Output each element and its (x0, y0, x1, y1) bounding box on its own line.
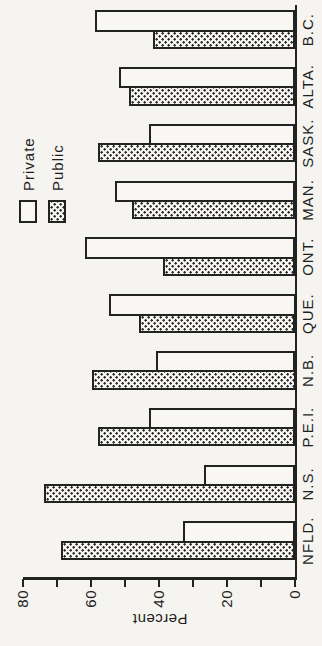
bar-private-bc (95, 10, 296, 31)
figure-scan: Percent Private Public 020406080NFLD.N.S… (0, 0, 322, 646)
legend-label-public: Public (50, 144, 66, 191)
tick-0 (294, 580, 296, 588)
tick-label-60: 60 (82, 590, 100, 626)
bar-public-man (132, 200, 295, 219)
category-label-ns: N.S. (300, 452, 316, 516)
tick-label-0: 0 (286, 590, 304, 626)
category-label-ont: ONT. (300, 225, 316, 289)
legend-label-private: Private (21, 137, 37, 191)
category-label-bc: B.C. (300, 0, 316, 62)
legend-private-swatch-icon (19, 200, 37, 223)
bar-private-que (109, 294, 296, 315)
tick-70 (56, 580, 58, 588)
legend-public-swatch-icon (48, 200, 66, 223)
bar-private-nb (156, 351, 295, 372)
bar-public-alta (129, 86, 296, 105)
bar-private-nfld (183, 522, 295, 543)
tick-10 (260, 580, 262, 588)
category-label-pei: P.E.I. (300, 395, 316, 459)
category-label-nfld: NFLD. (300, 509, 316, 573)
bar-public-sask (98, 143, 295, 162)
tick-60 (90, 580, 92, 588)
bar-private-man (115, 181, 295, 202)
bar-private-alta (119, 67, 296, 88)
bar-public-nb (92, 370, 296, 389)
category-label-que: QUE. (300, 282, 316, 346)
bar-private-ont (85, 238, 296, 259)
bar-public-nfld (61, 541, 296, 560)
tick-80 (22, 580, 24, 588)
bar-public-pei (98, 427, 295, 446)
bar-private-pei (149, 408, 295, 429)
category-label-nb: N.B. (300, 338, 316, 402)
bar-public-que (139, 314, 295, 333)
bar-public-ont (163, 257, 296, 276)
bar-public-bc (153, 30, 296, 49)
tick-label-20: 20 (218, 590, 236, 626)
bar-private-sask (149, 124, 295, 145)
category-label-alta: ALTA. (300, 54, 316, 118)
bar-public-ns (44, 484, 296, 503)
bar-chart: Percent Private Public 020406080NFLD.N.S… (0, 0, 322, 646)
category-label-sask: SASK. (300, 111, 316, 175)
tick-label-80: 80 (14, 590, 32, 626)
tick-40 (158, 580, 160, 588)
bar-private-ns (204, 465, 296, 486)
tick-label-40: 40 (150, 590, 168, 626)
category-label-man: MAN. (300, 168, 316, 232)
tick-20 (226, 580, 228, 588)
tick-50 (124, 580, 126, 588)
tick-30 (192, 580, 194, 588)
